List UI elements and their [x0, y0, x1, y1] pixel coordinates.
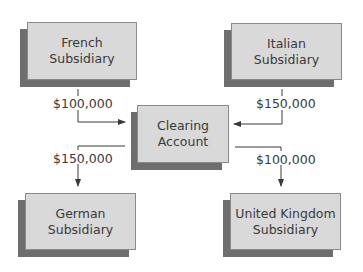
amount-clearing-to-uk: $100,000 — [256, 152, 316, 167]
flow-arrows — [0, 0, 363, 272]
amount-french-to-clearing: $100,000 — [53, 96, 113, 111]
amount-clearing-to-german: $150,000 — [53, 151, 113, 166]
amount-italian-to-clearing: $150,000 — [256, 96, 316, 111]
